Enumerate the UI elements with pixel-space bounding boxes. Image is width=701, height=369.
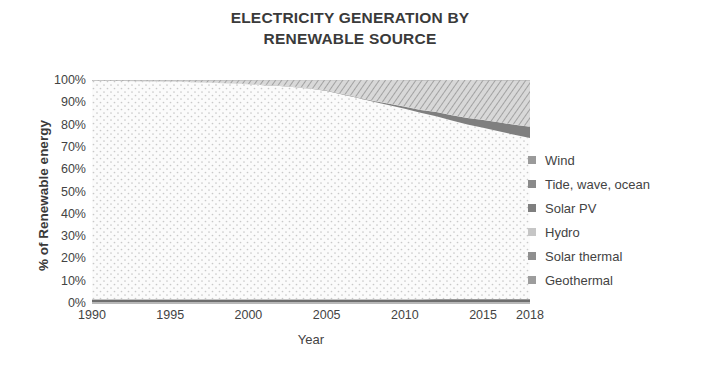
legend-swatch-icon [528, 204, 536, 212]
legend-item[interactable]: Geothermal [528, 268, 696, 292]
y-axis-tick: 20% [26, 251, 86, 265]
legend-swatch-icon [528, 228, 536, 236]
y-axis-tick: 0% [26, 296, 86, 310]
x-axis-tick: 2005 [313, 308, 341, 322]
y-axis-tick: 10% [26, 274, 86, 288]
x-axis-tick: 2018 [516, 308, 544, 322]
chart-title-line-2: RENEWABLE SOURCE [150, 29, 550, 50]
legend-swatch-icon [528, 252, 536, 260]
chart-title-line-1: ELECTRICITY GENERATION BY [150, 8, 550, 29]
x-axis-tick: 2010 [391, 308, 419, 322]
legend-item[interactable]: Hydro [528, 220, 696, 244]
y-axis-tick-labels: 100%90%80%70%60%50%40%30%20%10%0% [26, 72, 86, 310]
y-axis-tick: 70% [26, 140, 86, 154]
legend-item[interactable]: Tide, wave, ocean [528, 172, 696, 196]
y-axis-tick: 50% [26, 185, 86, 199]
legend-label: Solar PV [545, 201, 596, 216]
plot-area [92, 80, 530, 303]
chart-legend: WindTide, wave, oceanSolar PVHydroSolar … [528, 148, 696, 292]
x-axis-tick: 2000 [235, 308, 263, 322]
legend-label: Wind [545, 153, 575, 168]
y-axis-tick: 40% [26, 207, 86, 221]
y-axis-tick: 100% [26, 73, 86, 87]
chart-container: ELECTRICITY GENERATION BY RENEWABLE SOUR… [0, 0, 701, 369]
y-axis-tick: 80% [26, 118, 86, 132]
legend-item[interactable]: Solar thermal [528, 244, 696, 268]
y-axis-tick: 60% [26, 162, 86, 176]
x-axis-tick: 1995 [156, 308, 184, 322]
x-axis-tick: 1990 [78, 308, 106, 322]
x-axis-tick-labels: 1990199520002005201020152018 [92, 308, 530, 334]
legend-swatch-icon [528, 156, 536, 164]
x-axis-tick: 2015 [469, 308, 497, 322]
legend-label: Hydro [545, 225, 580, 240]
legend-item[interactable]: Solar PV [528, 196, 696, 220]
stacked-area-chart [92, 80, 530, 303]
legend-item[interactable]: Wind [528, 148, 696, 172]
legend-swatch-icon [528, 276, 536, 284]
chart-title: ELECTRICITY GENERATION BY RENEWABLE SOUR… [150, 8, 550, 50]
legend-swatch-icon [528, 180, 536, 188]
legend-label: Geothermal [545, 273, 613, 288]
y-axis-tick: 30% [26, 229, 86, 243]
x-axis-title: Year [92, 332, 530, 347]
y-axis-tick: 90% [26, 95, 86, 109]
x-axis-line [92, 302, 530, 304]
legend-label: Solar thermal [545, 249, 622, 264]
legend-label: Tide, wave, ocean [545, 177, 650, 192]
